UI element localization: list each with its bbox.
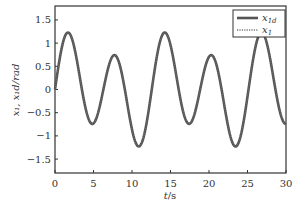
y-tick-label: 0 [45,84,51,95]
x-axis-label: t/s [164,190,177,201]
x-tick-label: 20 [203,178,216,189]
y-tick-label: −0.5 [27,107,51,118]
x-tick-label: 25 [241,178,254,189]
legend: x1d x1 [233,10,285,37]
y-tick-label: 1 [45,38,51,49]
y-tick-label: 0.5 [35,61,51,72]
y-axis-label: x₁, x₁d/rad [10,64,21,117]
x-tick-label: 15 [164,178,177,189]
x-tick-label: 0 [52,178,58,189]
y-tick-label: −1.5 [27,154,51,165]
x-tick-label: 10 [126,178,139,189]
data-series [55,33,286,147]
x-tick-label: 30 [280,178,293,189]
y-tick-label: −1 [36,130,51,141]
x-tick-label: 5 [90,178,96,189]
series-x1d-line [55,33,286,147]
legend-box [233,10,285,37]
y-axis-ticks: 1.510.50−0.5−1−1.5 [27,14,58,164]
line-chart: 1.510.50−0.5−1−1.5 051015202530 x1d x1 t… [0,0,295,208]
y-tick-label: 1.5 [35,14,51,25]
